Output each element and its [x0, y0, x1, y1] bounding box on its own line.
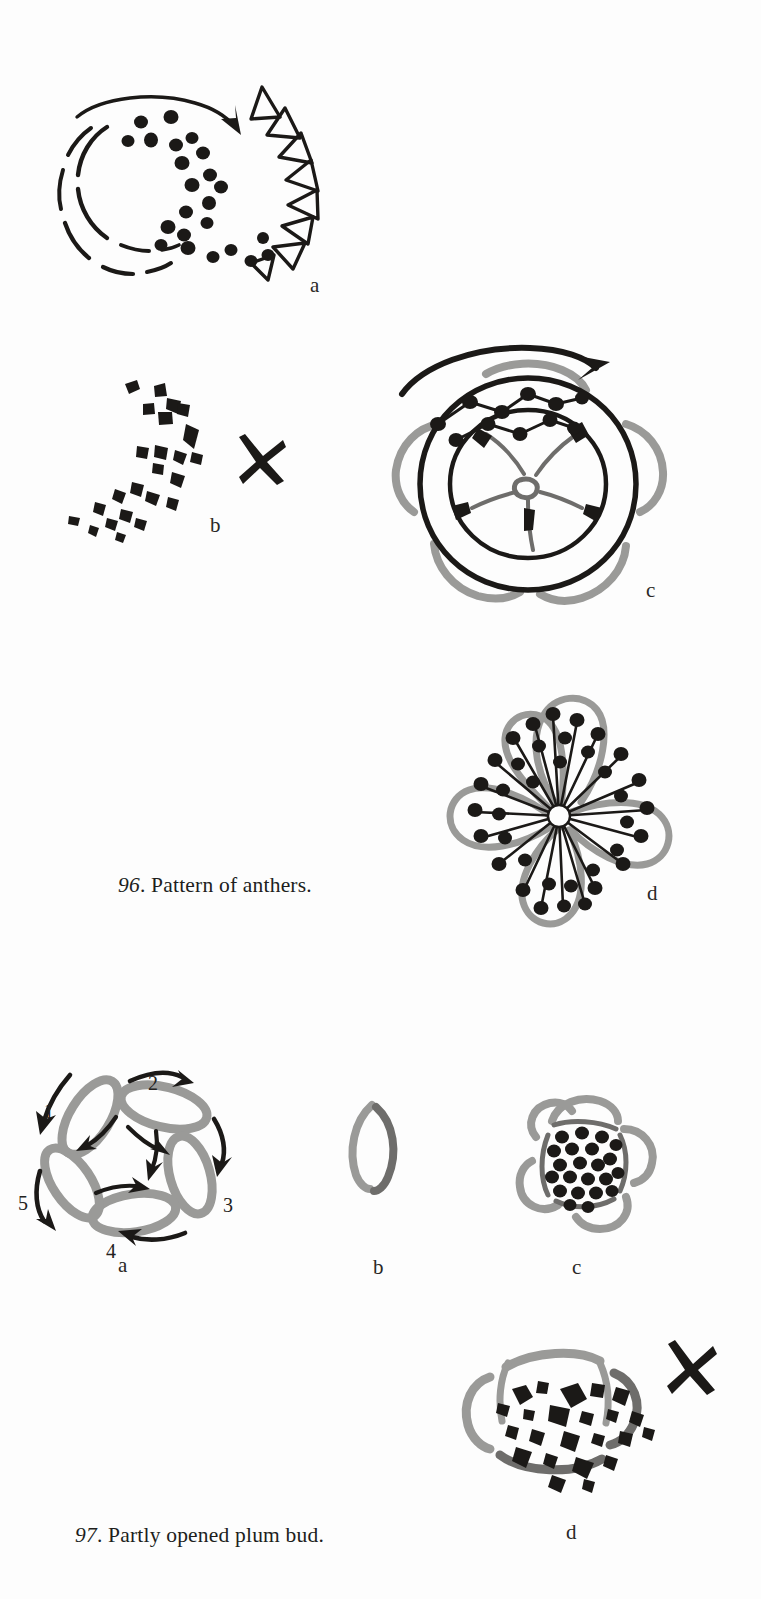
- caption-figure-97: 97. Partly opened plum bud.: [75, 1523, 324, 1548]
- figure-97-panel-d: [428, 1305, 678, 1495]
- panel-b-drawing-97: [334, 1095, 414, 1205]
- panel-label-97c: c: [572, 1257, 581, 1278]
- figure-97-panel-b: b: [334, 1095, 414, 1205]
- figure-96-panel-d: d: [425, 678, 695, 943]
- caption-figure-96: 96. Pattern of anthers.: [118, 873, 312, 898]
- panel-a-drawing-97: [18, 1045, 248, 1260]
- x-icon-2: [660, 1338, 720, 1398]
- panel-label-97b: b: [373, 1257, 384, 1278]
- figure-97-panel-c: c: [500, 1075, 675, 1245]
- scattered-anther-strokes: [68, 380, 203, 543]
- panel-label-96c: c: [646, 580, 655, 601]
- stroke-number-5: 5: [18, 1193, 28, 1213]
- panel-label-96a: a: [310, 275, 319, 296]
- book-page: a: [0, 0, 761, 1599]
- figure-96-panel-a: a: [55, 75, 355, 315]
- stroke-number-4: 4: [106, 1241, 116, 1261]
- panel-label-96d: d: [647, 883, 658, 904]
- caption-text-96: . Pattern of anthers.: [140, 873, 312, 897]
- caption-number-97: 97: [75, 1523, 97, 1547]
- stroke-number-2: 2: [148, 1073, 158, 1093]
- stroke-number-3: 3: [223, 1195, 233, 1215]
- x-icon: [232, 432, 288, 488]
- figure-97-panel-a: 1 2 3 4 5: [18, 1045, 248, 1260]
- cross-out-mark-96b: [232, 432, 288, 488]
- panel-label-96b: b: [210, 515, 221, 536]
- anther-blobs: [496, 1381, 655, 1493]
- figure-96-panel-c: c: [378, 332, 678, 622]
- panel-c-drawing-97: [500, 1075, 675, 1245]
- inner-stamens: [452, 422, 602, 550]
- dashed-circle: [59, 127, 179, 274]
- caption-number-96: 96: [118, 873, 140, 897]
- panel-c-drawing: [378, 332, 678, 622]
- caption-text-97: . Partly opened plum bud.: [97, 1523, 324, 1547]
- panel-d-drawing-97: [428, 1305, 678, 1495]
- petal-strokes: [34, 1071, 220, 1238]
- cross-out-mark-97d: [660, 1338, 720, 1398]
- panel-label-97a: a: [118, 1255, 127, 1276]
- stroke-number-1: 1: [44, 1101, 54, 1121]
- figure-97: 1 2 3 4 5 b: [0, 1000, 761, 1599]
- anther-dots: [122, 110, 275, 267]
- figure-96: a: [0, 0, 761, 960]
- open-triangles: [251, 87, 318, 280]
- center-circle: [514, 479, 537, 498]
- flower-center: [548, 805, 570, 827]
- panel-label-97d: d: [566, 1522, 577, 1543]
